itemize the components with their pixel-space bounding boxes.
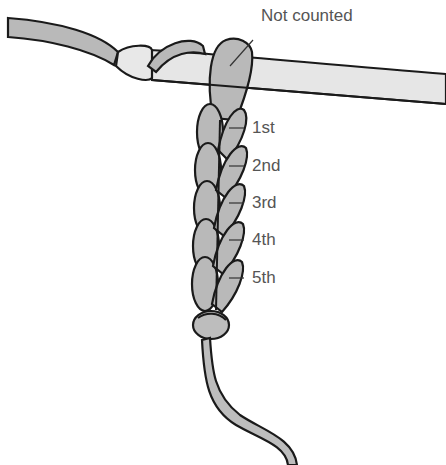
yarn-tail-bottom [202,338,297,465]
stitch-label-2nd: 2nd [252,157,280,174]
yarn-tail-left [8,18,118,65]
stitch-label-3rd: 3rd [252,194,277,211]
hook-tip [116,46,152,80]
stitch-label-5th: 5th [252,269,276,286]
stitch-label-4th: 4th [252,231,276,248]
slip-knot [193,311,229,339]
not-counted-label: Not counted [261,7,353,24]
chain-stitch-diagram: Not counted 1st 2nd 3rd 4th 5th [0,0,446,465]
crochet-hook [150,50,446,104]
chain-illustration [0,0,446,465]
stitch-label-1st: 1st [252,119,275,136]
